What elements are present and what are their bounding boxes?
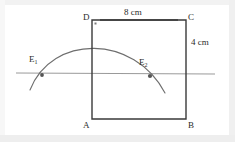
right-angle-tick-d xyxy=(95,23,97,25)
vertex-label-c: C xyxy=(188,13,194,22)
vertex-label-d: D xyxy=(83,13,90,22)
compass-arc xyxy=(30,48,165,93)
square-abcd xyxy=(92,20,186,119)
vertex-label-b: B xyxy=(188,121,194,130)
geometry-diagram-screenshot: D C B A 8 cm 4 cm E1 E2 xyxy=(0,0,235,142)
dimension-label-top: 8 cm xyxy=(124,8,142,17)
intersection-label-e2-base: E xyxy=(139,57,145,67)
intersection-label-e1-subscript: 1 xyxy=(35,59,38,65)
intersection-label-e2: E2 xyxy=(139,58,148,67)
diagram-canvas xyxy=(0,0,235,142)
intersection-point-e1 xyxy=(40,73,44,77)
intersection-point-e2 xyxy=(148,74,152,78)
intersection-label-e1-base: E xyxy=(29,54,35,64)
horizontal-construction-line xyxy=(16,73,215,74)
intersection-label-e2-subscript: 2 xyxy=(145,62,148,68)
vertex-label-a: A xyxy=(83,121,90,130)
intersection-label-e1: E1 xyxy=(29,55,38,64)
dimension-label-right: 4 cm xyxy=(191,38,209,47)
